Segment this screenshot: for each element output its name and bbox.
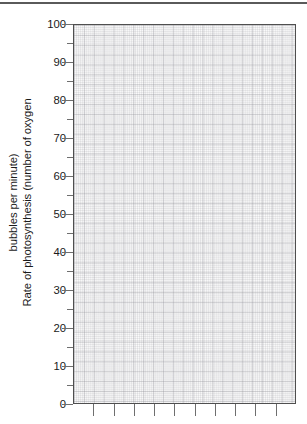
- y-axis-title-line-2: bubbles per minute): [6, 153, 20, 251]
- x-tick-4: [154, 404, 155, 416]
- x-tick-9: [255, 404, 256, 416]
- y-tick-major-10: [62, 366, 73, 367]
- y-axis-ticks: [62, 24, 73, 404]
- x-axis-ticks: [73, 404, 296, 417]
- y-tick-major-80: [62, 100, 73, 101]
- graph-figure: Rate of photosynthesis (number of oxygen…: [0, 0, 307, 424]
- y-tick-major-20: [62, 328, 73, 329]
- x-tick-6: [195, 404, 196, 416]
- y-tick-major-50: [62, 214, 73, 215]
- x-tick-3: [134, 404, 135, 416]
- y-axis-title: Rate of photosynthesis (number of oxygen…: [0, 0, 40, 404]
- x-tick-1: [93, 404, 94, 416]
- x-tick-5: [174, 404, 175, 416]
- y-tick-major-100: [62, 24, 73, 25]
- y-tick-major-70: [62, 138, 73, 139]
- top-divider-rule: [0, 2, 307, 4]
- x-tick-10: [276, 404, 277, 416]
- y-tick-major-60: [62, 176, 73, 177]
- plot-area-grid: [73, 24, 296, 404]
- y-axis-title-line-1: Rate of photosynthesis (number of oxygen: [20, 98, 34, 306]
- y-tick-major-30: [62, 290, 73, 291]
- y-axis-title-rotated: Rate of photosynthesis (number of oxygen…: [6, 98, 35, 306]
- y-tick-major-40: [62, 252, 73, 253]
- x-tick-7: [215, 404, 216, 416]
- y-tick-major-0: [62, 404, 73, 405]
- y-tick-major-90: [62, 62, 73, 63]
- x-tick-8: [235, 404, 236, 416]
- x-tick-2: [114, 404, 115, 416]
